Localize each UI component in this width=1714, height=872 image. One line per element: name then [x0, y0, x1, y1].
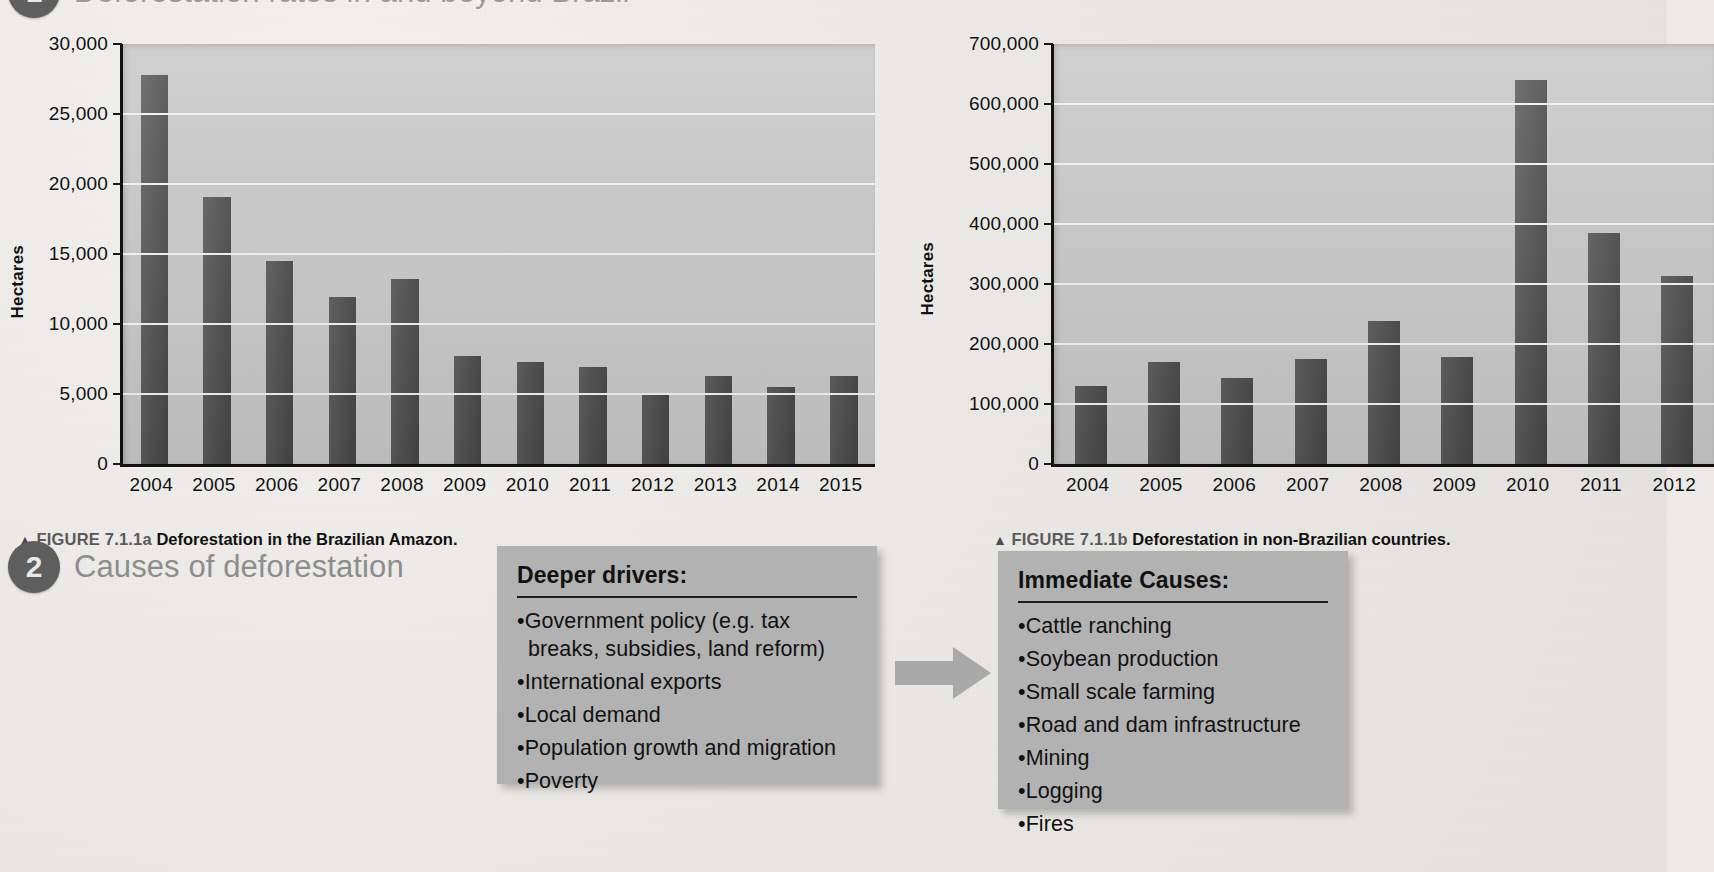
list-item: •Mining	[1018, 745, 1328, 773]
y-tick-label: 25,000	[49, 103, 108, 125]
bar	[141, 75, 169, 464]
bar	[830, 376, 858, 464]
bar	[1588, 233, 1620, 464]
y-tick-label: 400,000	[969, 213, 1039, 235]
bar	[1221, 378, 1253, 464]
x-tick-label: 2014	[747, 474, 810, 496]
list-item: •Government policy (e.g. tax breaks, sub…	[517, 608, 857, 664]
y-tick-mark	[1044, 283, 1053, 285]
chart-a-plot-area	[120, 44, 875, 467]
bar	[1661, 276, 1693, 464]
caption-triangle-icon: ▲	[993, 532, 1007, 548]
right-arrow-icon	[895, 645, 991, 701]
figure-b-number: FIGURE 7.1.1b	[1011, 530, 1127, 548]
gridline	[123, 393, 875, 395]
list-item: •Soybean production	[1018, 646, 1328, 674]
deeper-drivers-list: •Government policy (e.g. tax breaks, sub…	[517, 608, 857, 796]
chart-a-y-axis-labels: 30,00025,00020,00015,00010,0005,0000	[12, 44, 108, 464]
chart-b-x-axis-labels: 200420052006200720082009201020112012	[1051, 474, 1711, 496]
chart-a-x-axis-labels: 2004200520062007200820092010201120122013…	[120, 474, 872, 496]
x-tick-label: 2012	[1638, 474, 1711, 496]
y-tick-mark	[113, 43, 122, 45]
chart-non-brazilian-countries: Hectares 700,000600,000500,000400,000300…	[905, 30, 1667, 560]
y-tick-mark	[113, 183, 122, 185]
gridline	[123, 253, 875, 255]
chart-b-y-axis-title: Hectares	[918, 242, 938, 315]
x-tick-label: 2015	[809, 474, 872, 496]
section-number-badge-2: 2	[8, 541, 60, 593]
section-title-1: Deforestation rates in and beyond Brazil	[74, 0, 629, 10]
x-tick-label: 2009	[433, 474, 496, 496]
list-item: •International exports	[517, 669, 857, 697]
x-tick-label: 2006	[245, 474, 308, 496]
bar	[767, 387, 795, 464]
y-tick-mark	[113, 253, 122, 255]
bar-cell	[1421, 44, 1494, 464]
x-tick-label: 2008	[1344, 474, 1417, 496]
bar	[1075, 386, 1107, 464]
x-tick-label: 2012	[621, 474, 684, 496]
bar-cell	[1274, 44, 1347, 464]
bar	[1148, 362, 1180, 464]
section-number-badge-1: 1	[8, 0, 60, 18]
bar	[1515, 80, 1547, 464]
list-item: •Poverty	[517, 768, 857, 796]
x-tick-label: 2009	[1418, 474, 1491, 496]
bar	[391, 279, 419, 464]
y-tick-label: 300,000	[969, 273, 1039, 295]
y-tick-mark	[1044, 403, 1053, 405]
bar	[1295, 359, 1327, 464]
y-tick-label: 0	[1028, 453, 1039, 475]
gridline	[1054, 223, 1714, 225]
bar-cell	[1641, 44, 1714, 464]
bar-cell	[1494, 44, 1567, 464]
bar-cell	[1054, 44, 1127, 464]
y-tick-mark	[113, 393, 122, 395]
x-tick-label: 2013	[684, 474, 747, 496]
bar	[454, 356, 482, 464]
y-tick-mark	[1044, 343, 1053, 345]
section-title-2: Causes of deforestation	[74, 549, 404, 585]
y-tick-label: 15,000	[49, 243, 108, 265]
x-tick-label: 2007	[1271, 474, 1344, 496]
list-item: •Logging	[1018, 778, 1328, 806]
bar	[1441, 357, 1473, 464]
immediate-causes-divider	[1018, 601, 1328, 603]
x-tick-label: 2011	[559, 474, 622, 496]
list-item: •Road and dam infrastructure	[1018, 712, 1328, 740]
list-item: •Small scale farming	[1018, 679, 1328, 707]
y-tick-label: 20,000	[49, 173, 108, 195]
x-tick-label: 2007	[308, 474, 371, 496]
bar	[266, 261, 294, 464]
y-tick-label: 5,000	[59, 383, 108, 405]
x-tick-label: 2010	[1491, 474, 1564, 496]
immediate-causes-list: •Cattle ranching•Soybean production•Smal…	[1018, 613, 1328, 839]
section-header-1: 1 Deforestation rates in and beyond Braz…	[8, 0, 629, 18]
y-tick-mark	[1044, 223, 1053, 225]
bar	[705, 376, 733, 464]
bar	[642, 394, 670, 464]
y-tick-label: 600,000	[969, 93, 1039, 115]
y-tick-mark	[113, 113, 122, 115]
list-item: •Population growth and migration	[517, 735, 857, 763]
y-tick-label: 30,000	[49, 33, 108, 55]
x-tick-label: 2008	[371, 474, 434, 496]
figure-b-caption: ▲ FIGURE 7.1.1b Deforestation in non-Bra…	[993, 530, 1450, 549]
gridline	[123, 183, 875, 185]
chart-brazilian-amazon: Hectares 30,00025,00020,00015,00010,0005…	[0, 30, 880, 560]
bar-cell	[1201, 44, 1274, 464]
list-item: •Fires	[1018, 811, 1328, 839]
x-tick-label: 2010	[496, 474, 559, 496]
deeper-drivers-divider	[517, 596, 857, 598]
y-tick-mark	[1044, 463, 1053, 465]
gridline	[123, 323, 875, 325]
immediate-causes-box: Immediate Causes: •Cattle ranching•Soybe…	[998, 551, 1348, 809]
x-tick-label: 2004	[1051, 474, 1124, 496]
x-tick-label: 2005	[183, 474, 246, 496]
gridline	[1054, 163, 1714, 165]
x-tick-label: 2011	[1564, 474, 1637, 496]
y-tick-mark	[1044, 163, 1053, 165]
bar	[517, 362, 545, 464]
y-tick-label: 500,000	[969, 153, 1039, 175]
y-tick-mark	[1044, 103, 1053, 105]
